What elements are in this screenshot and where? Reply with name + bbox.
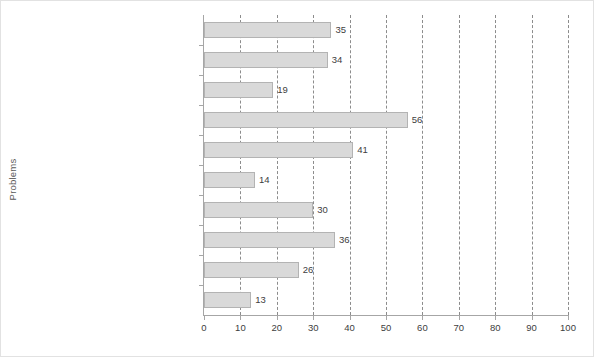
bar — [204, 232, 335, 248]
bar-value-label: 13 — [255, 292, 266, 308]
bar — [204, 262, 299, 278]
x-axis-tick — [532, 315, 533, 320]
bar — [204, 22, 331, 38]
x-axis-tick-label: 20 — [257, 322, 297, 333]
bar — [204, 142, 353, 158]
x-axis-tick-label: 100 — [548, 322, 588, 333]
bar-value-label: 41 — [357, 142, 368, 158]
x-axis-tick — [568, 315, 569, 320]
x-axis-tick-label: 10 — [220, 322, 260, 333]
bar — [204, 292, 251, 308]
bar-value-label: 14 — [259, 172, 270, 188]
x-axis-tick-label: 30 — [293, 322, 333, 333]
x-axis-tick — [495, 315, 496, 320]
gridline — [532, 15, 533, 315]
gridline — [386, 15, 387, 315]
bar-chart: Problems 0102030405060708090100 35341956… — [0, 0, 594, 357]
y-axis-tick — [199, 135, 204, 136]
bar — [204, 172, 255, 188]
gridline — [568, 15, 569, 315]
x-axis-tick-label: 70 — [439, 322, 479, 333]
y-axis-tick — [199, 195, 204, 196]
y-axis-tick — [199, 165, 204, 166]
bar-value-label: 30 — [317, 202, 328, 218]
bar-value-label: 35 — [335, 22, 346, 38]
y-axis-tick — [199, 75, 204, 76]
y-axis-tick — [199, 45, 204, 46]
x-axis-tick-label: 50 — [366, 322, 406, 333]
bar-value-label: 36 — [339, 232, 350, 248]
x-axis-tick — [386, 315, 387, 320]
y-axis-tick — [199, 105, 204, 106]
plot-area: 0102030405060708090100 35341956411430362… — [204, 15, 568, 315]
y-axis-tick — [199, 255, 204, 256]
x-axis-tick — [313, 315, 314, 320]
y-axis-tick — [199, 225, 204, 226]
bar-value-label: 34 — [332, 52, 343, 68]
bar-value-label: 56 — [412, 112, 423, 128]
x-axis-tick-label: 40 — [330, 322, 370, 333]
y-axis-title: Problems — [1, 1, 23, 357]
x-axis-tick — [350, 315, 351, 320]
gridline — [350, 15, 351, 315]
x-axis-tick — [277, 315, 278, 320]
x-axis-tick — [204, 315, 205, 320]
bar — [204, 52, 328, 68]
y-axis-tick — [199, 285, 204, 286]
bar-value-label: 26 — [303, 262, 314, 278]
bar — [204, 112, 408, 128]
x-axis-tick-label: 90 — [512, 322, 552, 333]
gridline — [422, 15, 423, 315]
x-axis-tick-label: 60 — [402, 322, 442, 333]
x-axis-tick — [459, 315, 460, 320]
x-axis-tick — [240, 315, 241, 320]
gridline — [495, 15, 496, 315]
x-axis-tick-label: 80 — [475, 322, 515, 333]
x-axis-tick-label: 0 — [184, 322, 224, 333]
bar-value-label: 19 — [277, 82, 288, 98]
bar — [204, 202, 313, 218]
x-axis-tick — [422, 315, 423, 320]
gridline — [459, 15, 460, 315]
bar — [204, 82, 273, 98]
